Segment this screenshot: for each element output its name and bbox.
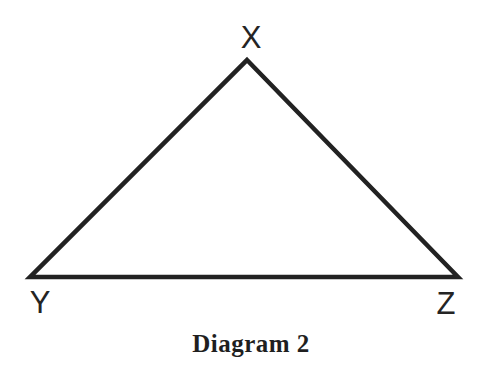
triangle-figure: X Y Z Diagram 2 [0, 0, 484, 375]
diagram-caption: Diagram 2 [192, 330, 310, 358]
vertex-label-y: Y [30, 287, 51, 318]
triangle-outline-texture [31, 61, 459, 278]
vertex-label-z: Z [437, 288, 456, 319]
diagram-canvas: X Y Z [0, 0, 484, 375]
vertex-label-x: X [241, 22, 262, 53]
triangle-outline [30, 60, 458, 277]
triangle-shape [0, 0, 484, 375]
diagram-page: X Y Z Diagram 2 [0, 0, 484, 375]
